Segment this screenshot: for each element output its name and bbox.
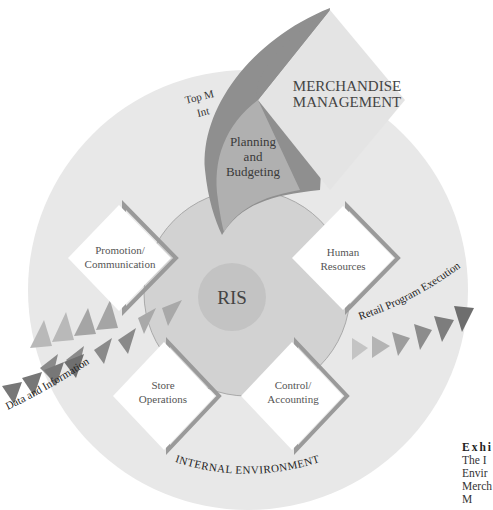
exhibit-caption: Exhi The I Envir Merch M [462,441,493,506]
merchandise-label-line1: MERCHANDISE [293,78,401,94]
merchandise-label-line2: MANAGEMENT [293,94,401,110]
promotion-label-line1: Promotion/ [95,244,145,256]
planning-label-line1: Planning [230,134,277,149]
planning-label-line2: and [244,149,263,164]
store-operations-label-line1: Store [151,379,174,391]
human-resources-label-line2: Resources [320,260,365,272]
control-accounting-label-line1: Control/ [275,379,313,391]
caption-line4: M [462,493,493,506]
caption-line3: Merch [462,480,493,493]
control-accounting-label-line2: Accounting [267,393,319,405]
diagram-canvas: MERCHANDISE MANAGEMENT Planning and Budg… [0,0,493,510]
caption-line2: Envir [462,467,493,480]
caption-line1: The I [462,454,493,467]
human-resources-label-line1: Human [327,246,360,258]
caption-title: Exhi [462,441,493,454]
ris-label: RIS [217,287,247,308]
store-operations-label-line2: Operations [139,393,187,405]
planning-label-line3: Budgeting [226,164,281,179]
promotion-label-line2: Communication [85,258,156,270]
